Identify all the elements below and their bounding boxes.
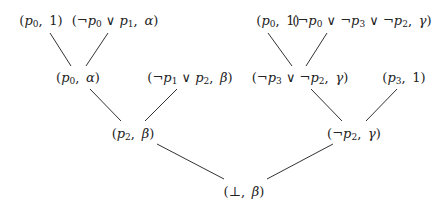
edge-n3-n7 (268, 33, 292, 66)
node-notp3-or-notp2-gamma: (¬p3 ∨ ¬p2, γ) (252, 71, 349, 86)
edge-n7-n10 (311, 89, 342, 121)
edge-n6-n9 (145, 89, 177, 121)
edge-n8-n10 (366, 89, 397, 121)
node-notp1-or-p2-beta: (¬p1 ∨ p2, β) (147, 71, 232, 86)
node-notp2-gamma: (¬p2, γ) (327, 127, 381, 142)
node-p0-1-left: (p0, 1) (19, 14, 62, 29)
edge-n10-n11 (267, 144, 333, 179)
node-p2-beta: (p2, β) (112, 127, 155, 142)
node-p0-alpha: (p0, α) (56, 71, 100, 86)
node-p3-1: (p3, 1) (382, 71, 425, 86)
edges-layer (0, 0, 446, 207)
node-notp0-or-p1-alpha: (¬p0 ∨ p1, α) (72, 14, 159, 29)
node-notp0-or-notp3-or-notp2-gamma: (¬p0 ∨ ¬p3 ∨ ¬p2, γ) (292, 14, 431, 29)
edge-n2-n5 (86, 33, 108, 66)
edge-n5-n9 (90, 89, 121, 121)
edge-n9-n11 (157, 144, 224, 179)
edge-n1-n5 (50, 33, 71, 66)
edge-n4-n7 (306, 33, 327, 66)
node-bottom-beta: (⊥, β) (224, 185, 265, 198)
